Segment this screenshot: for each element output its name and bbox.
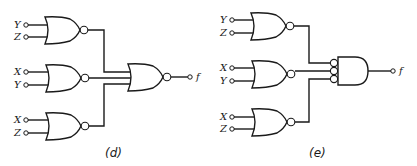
input-terminal <box>230 127 234 131</box>
and-gate-e-output: f <box>330 57 405 85</box>
input-label: Z <box>13 31 22 42</box>
output-terminal <box>391 69 395 73</box>
inversion-bubble <box>286 22 294 30</box>
inversion-bubble <box>81 74 89 82</box>
nor-gate-d1: Y Z <box>13 17 88 44</box>
inversion-bubble <box>330 75 337 82</box>
caption-e: (e) <box>309 146 326 160</box>
input-label: X <box>13 66 22 77</box>
input-terminal <box>24 70 28 74</box>
input-label: Y <box>220 14 228 25</box>
circuit-d: Y Z X Y X Z <box>13 17 202 160</box>
caption-d: (d) <box>105 146 122 160</box>
output-label: f <box>195 71 202 82</box>
input-label: X <box>219 62 228 73</box>
nor-gate-e2: X Y <box>219 61 295 88</box>
input-terminal <box>230 115 234 119</box>
input-label: Y <box>220 75 228 86</box>
input-terminal <box>24 131 28 135</box>
nor-gate-e1: Y Z <box>219 13 294 40</box>
input-terminal <box>230 18 234 22</box>
nor-gate-body <box>252 109 287 136</box>
output-terminal <box>188 75 192 79</box>
input-label: Y <box>14 79 22 90</box>
input-label: Y <box>14 19 22 30</box>
nor-gate-d3: X Z <box>13 113 89 140</box>
nor-gate-d2: X Y <box>13 65 89 92</box>
input-label: X <box>13 114 22 125</box>
nor-gate-d-output: f <box>128 64 202 91</box>
nor-gate-body <box>46 65 81 92</box>
input-terminal <box>24 23 28 27</box>
nor-gate-body <box>251 13 286 40</box>
input-terminal <box>24 35 28 39</box>
nor-gate-e3: X Z <box>219 109 295 136</box>
inversion-bubble <box>80 26 88 34</box>
circuit-e: Y Z X Y X Z <box>219 13 405 160</box>
output-label: f <box>398 65 405 76</box>
inversion-bubble <box>330 67 337 74</box>
inversion-bubble <box>330 59 337 66</box>
input-terminal <box>230 31 234 35</box>
input-label: Z <box>219 123 228 134</box>
inversion-bubble <box>287 70 295 78</box>
inversion-bubble <box>287 118 295 126</box>
input-terminal <box>24 83 28 87</box>
nor-gate-body <box>46 113 81 140</box>
inversion-bubble <box>81 122 89 130</box>
input-terminal <box>24 118 28 122</box>
inversion-bubble <box>163 73 171 81</box>
logic-circuits: Y Z X Y X Z <box>0 0 417 166</box>
nor-gate-body <box>252 61 287 88</box>
and-gate-body <box>338 57 368 85</box>
input-terminal <box>230 66 234 70</box>
nor-gate-body <box>128 64 163 91</box>
nor-gate-body <box>45 17 80 44</box>
input-label: Z <box>13 127 22 138</box>
input-terminal <box>230 79 234 83</box>
input-label: X <box>219 111 228 122</box>
input-label: Z <box>219 27 228 38</box>
